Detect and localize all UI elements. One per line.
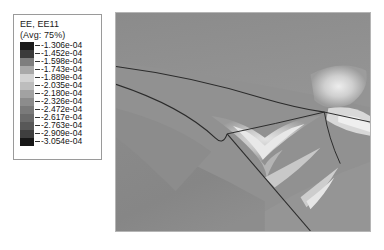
legend-tick-mark — [35, 133, 40, 134]
legend-color-swatch — [20, 50, 34, 58]
legend-title-block: EE, EE11 (Avg: 75%) — [20, 19, 65, 41]
legend-color-swatch — [20, 58, 34, 66]
legend-tick-mark — [35, 69, 40, 70]
legend-tick-mark — [35, 101, 40, 102]
legend-tick-mark — [35, 53, 40, 54]
legend-color-swatch — [20, 90, 34, 98]
legend-tick-mark — [35, 125, 40, 126]
legend-color-swatch — [20, 106, 34, 114]
legend-color-swatch — [20, 122, 34, 130]
legend-tick-mark — [35, 77, 40, 78]
legend-color-swatch — [20, 130, 34, 138]
contour-plot-canvas — [116, 13, 370, 231]
legend-tick-row: -3.054e-04 — [20, 138, 98, 146]
legend-tick-mark — [35, 93, 40, 94]
legend-color-swatch — [20, 42, 34, 50]
legend-color-scale: -1.306e-04-1.452e-04-1.598e-04-1.743e-04… — [20, 42, 98, 154]
legend-variable-label: EE, EE11 — [20, 19, 65, 30]
legend-tick-label: -3.054e-04 — [41, 136, 82, 146]
legend-tick-mark — [35, 109, 40, 110]
legend-color-swatch — [20, 138, 34, 146]
legend-color-swatch — [20, 74, 34, 82]
legend-color-swatch — [20, 114, 34, 122]
contour-legend-panel: EE, EE11 (Avg: 75%) -1.306e-04-1.452e-04… — [13, 14, 102, 160]
legend-tick-mark — [35, 141, 40, 142]
legend-tick-mark — [35, 117, 40, 118]
legend-color-swatch — [20, 66, 34, 74]
contour-plot-viewport[interactable] — [115, 12, 371, 232]
legend-tick-mark — [35, 45, 40, 46]
legend-tick-mark — [35, 85, 40, 86]
legend-color-swatch — [20, 82, 34, 90]
legend-tick-mark — [35, 61, 40, 62]
legend-color-swatch — [20, 98, 34, 106]
